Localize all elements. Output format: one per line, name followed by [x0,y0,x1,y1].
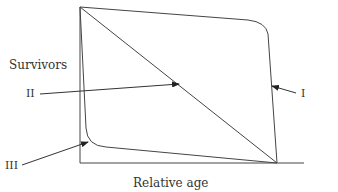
curve-label-I: I [301,88,305,99]
arrow-III [22,142,88,165]
survivorship-diagram: Survivors Relative age II I III [0,0,338,192]
curve-label-III: III [5,160,18,171]
arrow-I [272,86,296,93]
arrow-II [40,84,179,94]
y-axis-label: Survivors [9,59,67,71]
survivorship-plot [0,0,338,192]
curve-II [80,7,277,163]
curve-label-II: II [26,88,35,99]
x-axis-label: Relative age [133,177,208,189]
